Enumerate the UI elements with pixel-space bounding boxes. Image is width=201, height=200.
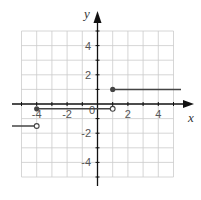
x-axis-label: x [187,110,194,125]
y-tick-label: -4 [81,156,91,168]
y-tick-label: 2 [85,69,91,81]
x-tick-label: 4 [155,108,161,120]
step-function-graph: -4 -2 0 2 4 4 2 -2 -4 y x [0,0,201,200]
x-tick-label: -2 [62,108,72,120]
closed-endpoint [34,106,39,111]
open-endpoint [34,124,39,129]
x-tick-label: 0 [89,104,95,116]
x-axis-arrow-icon [183,100,194,108]
y-tick-label: 4 [85,40,91,52]
open-endpoint [110,106,115,111]
x-tick-label: 2 [125,108,131,120]
y-axis [94,11,102,186]
closed-endpoint [110,87,115,92]
y-axis-arrow-icon [94,11,102,23]
y-tick-label: -2 [81,127,91,139]
x-axis [12,100,194,108]
y-axis-label: y [82,6,90,21]
